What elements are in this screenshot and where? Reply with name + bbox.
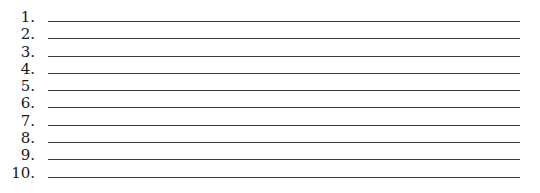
- blank-answer-line: [48, 142, 520, 143]
- blank-answer-line: [48, 125, 520, 126]
- blank-answer-line: [48, 90, 520, 91]
- blank-answer-line: [48, 159, 520, 160]
- blank-answer-line: [48, 21, 520, 22]
- list-item: 4.: [0, 61, 540, 78]
- list-item: 10.: [0, 165, 540, 182]
- item-number: 5.: [21, 78, 35, 95]
- blank-answer-line: [48, 38, 520, 39]
- item-number: 9.: [21, 147, 35, 164]
- item-number: 8.: [21, 130, 35, 147]
- item-number: 6.: [21, 95, 35, 112]
- numbered-blank-list: 1. 2. 3. 4. 5. 6. 7. 8. 9. 10.: [0, 9, 540, 182]
- list-item: 3.: [0, 44, 540, 61]
- list-item: 9.: [0, 147, 540, 164]
- list-item: 6.: [0, 95, 540, 112]
- item-number: 7.: [21, 113, 35, 130]
- blank-answer-line: [48, 73, 520, 74]
- list-item: 7.: [0, 113, 540, 130]
- item-number: 2.: [21, 26, 35, 43]
- list-item: 2.: [0, 26, 540, 43]
- item-number: 4.: [21, 61, 35, 78]
- blank-answer-line: [48, 56, 520, 57]
- item-number: 1.: [21, 9, 35, 26]
- item-number: 10.: [11, 165, 35, 182]
- list-item: 8.: [0, 130, 540, 147]
- list-item: 1.: [0, 9, 540, 26]
- blank-answer-line: [48, 107, 520, 108]
- blank-answer-line: [48, 177, 520, 178]
- item-number: 3.: [21, 44, 35, 61]
- list-item: 5.: [0, 78, 540, 95]
